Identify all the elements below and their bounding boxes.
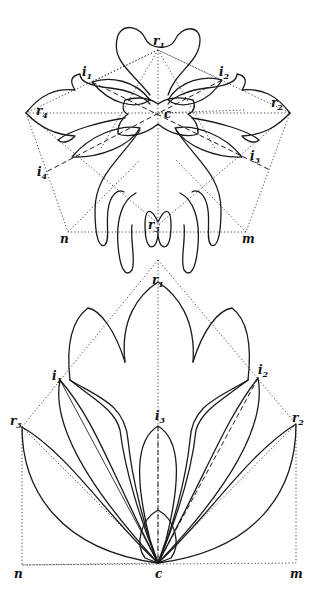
label-bottom-r2: r2 bbox=[292, 411, 304, 427]
label-bottom-r3: r3 bbox=[10, 414, 22, 430]
label-top-m: m bbox=[242, 232, 255, 246]
label-bottom-i1: i1 bbox=[52, 369, 62, 385]
label-bottom-n: n bbox=[14, 567, 23, 581]
ornament-diagram: r1 i1 i2 r4 r2 c i3 i4 r3 n m bbox=[0, 0, 320, 592]
label-top-i4: i4 bbox=[37, 165, 48, 181]
top-figure: r1 i1 i2 r4 r2 c i3 i4 r3 n m bbox=[26, 28, 290, 273]
label-bottom-r1: r1 bbox=[152, 273, 164, 289]
label-top-r4: r4 bbox=[36, 104, 48, 120]
label-top-c: c bbox=[164, 107, 172, 121]
label-bottom-m: m bbox=[290, 567, 303, 581]
label-top-i1: i1 bbox=[82, 65, 92, 81]
label-bottom-i3: i3 bbox=[155, 409, 166, 425]
label-top-i2: i2 bbox=[219, 65, 230, 81]
label-bottom-c: c bbox=[155, 567, 163, 581]
label-bottom-i2: i2 bbox=[258, 363, 269, 379]
label-top-n: n bbox=[60, 232, 69, 246]
label-top-r1: r1 bbox=[153, 34, 165, 50]
bottom-figure: r1 i1 i2 i3 r3 r2 n c m bbox=[10, 260, 304, 581]
label-top-i3: i3 bbox=[250, 149, 261, 165]
label-top-r2: r2 bbox=[271, 96, 283, 112]
